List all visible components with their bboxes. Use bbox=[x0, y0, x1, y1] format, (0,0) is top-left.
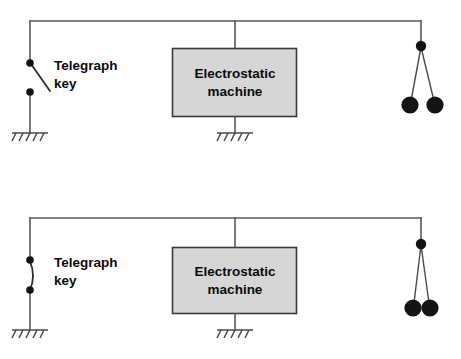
electroscope-top[interactable] bbox=[401, 41, 443, 114]
figure-root: Telegraph key Electrostatic machine bbox=[0, 0, 461, 359]
circuit-diagram-canvas: Telegraph key Electrostatic machine bbox=[0, 0, 461, 359]
telegraph-key-top[interactable] bbox=[26, 59, 50, 96]
ground-symbol-center-bottom bbox=[217, 330, 253, 338]
electroscope-pith-ball-left bbox=[404, 299, 421, 316]
telegraph-key-label-line1: Telegraph bbox=[54, 255, 118, 270]
telegraph-key-bottom[interactable] bbox=[26, 256, 34, 294]
panel-bottom: Telegraph key Electrostatic machine bbox=[12, 218, 439, 338]
telegraph-key-lever[interactable] bbox=[31, 64, 50, 91]
telegraph-key-label-line1: Telegraph bbox=[54, 58, 118, 73]
electroscope-thread-left bbox=[414, 245, 421, 303]
machine-label-line1: Electrostatic bbox=[194, 264, 276, 279]
telegraph-key-lever[interactable] bbox=[30, 261, 33, 290]
telegraph-key-label-line2: key bbox=[54, 76, 77, 91]
telegraph-key-lower-contact-dot bbox=[26, 88, 34, 96]
telegraph-key-label-line2: key bbox=[54, 273, 77, 288]
machine-label-line1: Electrostatic bbox=[194, 66, 276, 81]
electroscope-suspension-dot bbox=[416, 239, 426, 249]
ground-symbol-left-bottom bbox=[12, 330, 48, 338]
telegraph-key-lower-contact-dot bbox=[26, 286, 34, 294]
electroscope-thread-right bbox=[421, 47, 434, 101]
electroscope-pith-ball-right bbox=[421, 299, 438, 316]
electroscope-thread-right bbox=[421, 245, 429, 303]
electroscope-suspension-dot bbox=[416, 41, 426, 51]
electrostatic-machine-box-top[interactable] bbox=[173, 49, 297, 117]
electrostatic-machine-box-bottom[interactable] bbox=[173, 248, 297, 314]
panel-top: Telegraph key Electrostatic machine bbox=[12, 21, 444, 141]
electroscope-pith-ball-right bbox=[426, 96, 443, 113]
telegraph-key-upper-contact-dot bbox=[26, 59, 34, 67]
machine-label-line2: machine bbox=[208, 84, 263, 99]
electroscope-bottom[interactable] bbox=[404, 239, 438, 317]
ground-symbol-left-top bbox=[12, 133, 48, 141]
ground-symbol-center-top bbox=[217, 133, 253, 141]
machine-label-line2: machine bbox=[208, 282, 263, 297]
electroscope-thread-left bbox=[411, 47, 421, 101]
telegraph-key-upper-contact-dot bbox=[26, 256, 34, 264]
electroscope-pith-ball-left bbox=[401, 96, 418, 113]
